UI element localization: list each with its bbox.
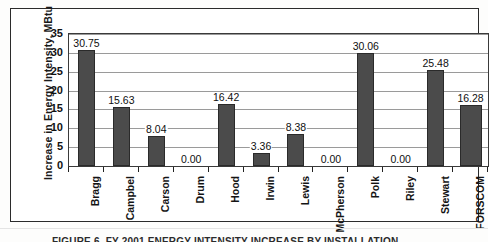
x-tick-mark — [312, 167, 313, 172]
bar — [357, 53, 374, 166]
bar-value-label: 16.42 — [212, 92, 240, 103]
bar-value-label: 0.00 — [180, 154, 202, 165]
x-tick-label: Hood — [229, 176, 241, 203]
x-tick-mark — [68, 167, 69, 172]
bar — [218, 104, 235, 166]
x-tick-mark — [103, 167, 104, 172]
x-tick-label: Lewis — [299, 176, 311, 205]
bar-value-label: 30.75 — [72, 38, 100, 49]
bar-group: 30.75 — [69, 34, 104, 166]
page-hairline — [0, 228, 488, 229]
bar-group: 0.00 — [383, 34, 418, 166]
y-tick-label: 10 — [37, 122, 63, 132]
bar-group: 8.04 — [139, 34, 174, 166]
bar-group: 3.36 — [244, 34, 279, 166]
x-tick-label: Riley — [404, 176, 416, 201]
bar — [253, 153, 270, 166]
y-tick-label: 20 — [37, 85, 63, 95]
x-tick-mark — [278, 167, 279, 172]
y-axis-tick-labels: 05101520253035 — [37, 28, 63, 168]
x-tick-mark — [417, 167, 418, 172]
y-tick-label: 0 — [37, 160, 63, 170]
x-axis-tick-labels: BraggCampbelCarsonDrumHoodIrwinLewisMcPh… — [68, 174, 489, 232]
x-tick-mark — [138, 167, 139, 172]
bar-value-label: 30.06 — [352, 41, 380, 52]
bar-group: 8.38 — [279, 34, 314, 166]
bar-value-label: 3.36 — [250, 141, 272, 152]
x-tick-label: Polk — [369, 176, 381, 198]
bar-value-label: 0.00 — [320, 154, 342, 165]
x-tick-label: Stewart — [439, 176, 451, 214]
x-tick-label: McPherson — [334, 176, 346, 233]
figure-frame: Increase in Energy Intensity, MBtu 05101… — [10, 8, 479, 222]
bar-value-label: 0.00 — [389, 154, 411, 165]
bar-group: 30.06 — [348, 34, 383, 166]
x-tick-mark — [243, 167, 244, 172]
bar-group: 16.42 — [209, 34, 244, 166]
y-tick-label: 15 — [37, 103, 63, 113]
bar-value-label: 15.63 — [107, 95, 135, 106]
x-tick-label: Carson — [159, 176, 171, 212]
bar-value-label: 8.38 — [285, 122, 307, 133]
figure-caption: FIGURE 6. FY 2001 ENERGY INTENSITY INCRE… — [52, 236, 452, 242]
y-tick-label: 30 — [37, 47, 63, 57]
plot-area: 30.7515.638.040.0016.423.368.380.0030.06… — [68, 33, 489, 167]
x-tick-mark — [382, 167, 383, 172]
x-tick-label: Drum — [194, 176, 206, 203]
x-tick-label: Irwin — [264, 176, 276, 201]
bar-group: 25.48 — [418, 34, 453, 166]
x-tick-mark — [347, 167, 348, 172]
bar — [113, 107, 130, 166]
bar — [287, 134, 304, 166]
y-tick-label: 35 — [37, 28, 63, 38]
bar-value-label: 16.28 — [456, 93, 484, 104]
bar-group: 0.00 — [174, 34, 209, 166]
x-tick-label: Campbel — [124, 176, 136, 220]
bar-group: 16.28 — [453, 34, 488, 166]
y-tick-label: 25 — [37, 66, 63, 76]
x-tick-mark — [173, 167, 174, 172]
bar-series: 30.7515.638.040.0016.423.368.380.0030.06… — [69, 34, 488, 166]
x-tick-mark — [487, 167, 488, 172]
bar-value-label: 8.04 — [145, 124, 167, 135]
x-tick-mark — [208, 167, 209, 172]
x-tick-label: FORSCOM — [474, 176, 486, 230]
x-tick-label: Bragg — [89, 176, 101, 206]
bar-group: 0.00 — [313, 34, 348, 166]
bar — [78, 50, 95, 166]
bar — [427, 70, 444, 166]
bar — [460, 105, 482, 166]
bar-group: 15.63 — [104, 34, 139, 166]
x-tick-mark — [452, 167, 453, 172]
y-tick-label: 5 — [37, 141, 63, 151]
bar-value-label: 25.48 — [421, 58, 449, 69]
bar — [148, 136, 165, 166]
